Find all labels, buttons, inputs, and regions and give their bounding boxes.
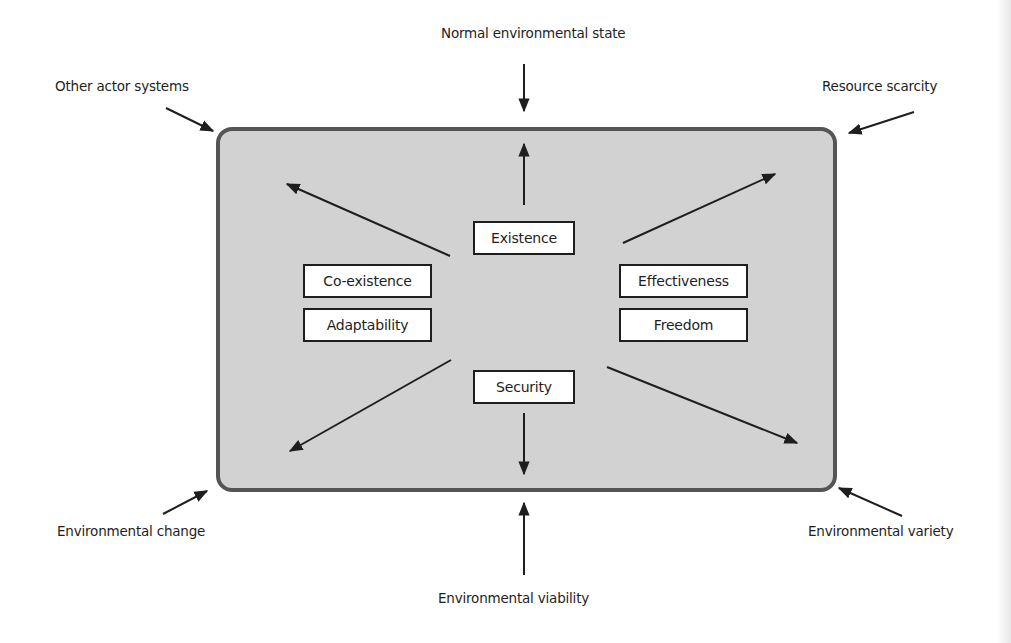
orientor-adaptability: Adaptability bbox=[303, 308, 432, 342]
label-other-actor-systems: Other actor systems bbox=[55, 78, 189, 94]
arrow-environmental-change bbox=[163, 491, 207, 514]
orientor-security-label: Security bbox=[496, 379, 552, 395]
orientor-effectiveness: Effectiveness bbox=[619, 264, 748, 298]
orientor-adaptability-label: Adaptability bbox=[327, 317, 409, 333]
orientor-freedom: Freedom bbox=[619, 308, 748, 342]
orientor-co-existence-label: Co-existence bbox=[323, 273, 411, 289]
label-environmental-variety: Environmental variety bbox=[808, 523, 953, 539]
orientor-effectiveness-label: Effectiveness bbox=[638, 273, 729, 289]
orientor-security: Security bbox=[473, 370, 575, 404]
label-normal-environmental-state: Normal environmental state bbox=[441, 25, 625, 41]
label-environmental-change: Environmental change bbox=[57, 523, 205, 539]
orientor-existence-label: Existence bbox=[491, 230, 557, 246]
arrow-resource-scarcity bbox=[849, 112, 914, 133]
arrow-environmental-variety bbox=[839, 488, 902, 516]
page-edge-shade bbox=[997, 0, 1011, 643]
orientor-co-existence: Co-existence bbox=[303, 264, 432, 298]
label-resource-scarcity: Resource scarcity bbox=[822, 78, 937, 94]
orientor-freedom-label: Freedom bbox=[654, 317, 713, 333]
label-environmental-viability: Environmental viability bbox=[438, 590, 589, 606]
orientor-existence: Existence bbox=[473, 221, 575, 255]
arrow-other-actor-systems bbox=[166, 108, 213, 131]
